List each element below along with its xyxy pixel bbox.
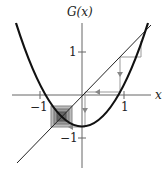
arrow-left-icon [95, 89, 100, 95]
x-tick-label-neg1: −1 [30, 101, 48, 113]
cobweb-diagram: G(x) x −1 1 1 −1 [0, 0, 168, 175]
plot-area [0, 0, 168, 175]
arrow-down-icon [117, 72, 123, 77]
arrow-down-icon [82, 108, 88, 113]
x-tick-label-1: 1 [121, 101, 129, 113]
y-tick-label-neg1: −1 [60, 132, 78, 144]
y-axis-label: G(x) [67, 6, 93, 18]
diagonal-line [17, 25, 151, 163]
y-tick-label-1: 1 [69, 46, 77, 58]
x-axis-label: x [155, 89, 162, 101]
